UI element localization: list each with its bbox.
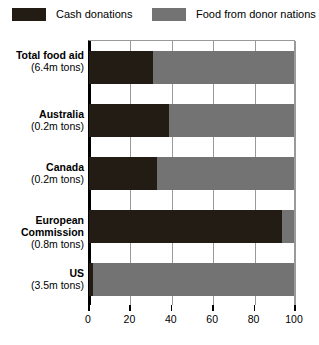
x-axis-tick (212, 305, 214, 311)
bar-segment (93, 263, 294, 296)
y-axis-label-sub: (6.4m tons) (0, 61, 84, 73)
y-axis-label-name: Canada (0, 161, 84, 173)
x-axis-tick-label: 20 (114, 313, 144, 325)
legend-swatch-icon (12, 8, 46, 21)
bar-segment (169, 104, 294, 137)
y-axis-label: Australia(0.2m tons) (0, 108, 84, 132)
bar-segment (89, 157, 157, 190)
x-axis-tick (88, 305, 90, 311)
gridline (295, 41, 296, 305)
x-axis-tick (171, 305, 173, 311)
y-axis-label-name: Australia (0, 108, 84, 120)
bar-segment (157, 157, 294, 190)
chart-legend: Cash donationsFood from donor nations (0, 4, 319, 26)
y-axis-label: European Commission(0.8m tons) (0, 214, 84, 250)
x-axis: 020406080100 (88, 305, 295, 335)
bar-row (89, 157, 294, 190)
y-axis-label: US(3.5m tons) (0, 267, 84, 291)
plot-area (88, 40, 295, 305)
bar-row (89, 51, 294, 84)
x-axis-tick (129, 305, 131, 311)
y-axis-label-sub: (0.8m tons) (0, 238, 84, 250)
legend-entry: Cash donations (12, 4, 132, 24)
bar-segment (89, 104, 169, 137)
y-axis-label-name: US (0, 267, 84, 279)
x-axis-tick-label: 80 (239, 313, 269, 325)
y-axis-category-labels: Total food aid(6.4m tons)Australia(0.2m … (0, 40, 84, 305)
legend-entry: Food from donor nations (152, 4, 316, 24)
x-axis-tick-label: 40 (156, 313, 186, 325)
food-aid-stacked-bar-chart: Cash donationsFood from donor nations To… (0, 0, 319, 345)
bar-segment (282, 210, 294, 243)
legend-label: Food from donor nations (196, 8, 316, 21)
x-axis-tick (254, 305, 256, 311)
bar-row (89, 210, 294, 243)
bar-row (89, 104, 294, 137)
y-axis-label-sub: (3.5m tons) (0, 279, 84, 291)
bar-segment (89, 51, 153, 84)
x-axis-tick-label: 60 (197, 313, 227, 325)
bar-row (89, 263, 294, 296)
y-axis-label: Total food aid(6.4m tons) (0, 49, 84, 73)
x-axis-tick-label: 0 (73, 313, 103, 325)
bar-segment (89, 210, 282, 243)
y-axis-label: Canada(0.2m tons) (0, 161, 84, 185)
y-axis-label-name: Total food aid (0, 49, 84, 61)
y-axis-label-sub: (0.2m tons) (0, 173, 84, 185)
x-axis-tick-label: 100 (279, 313, 309, 325)
y-axis-label-sub: (0.2m tons) (0, 120, 84, 132)
bar-segment (153, 51, 294, 84)
x-axis-tick (294, 305, 296, 311)
legend-swatch-icon (152, 8, 186, 21)
legend-label: Cash donations (56, 8, 132, 21)
y-axis-label-name: European Commission (0, 214, 84, 238)
bar-series-container (89, 41, 294, 305)
